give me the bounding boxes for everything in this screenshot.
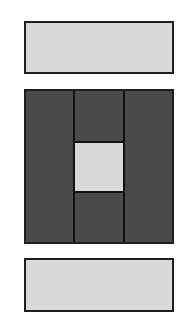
middle-block xyxy=(24,89,174,244)
top-bar xyxy=(24,21,174,74)
bottom-bar xyxy=(24,258,174,312)
center-square xyxy=(73,141,125,193)
